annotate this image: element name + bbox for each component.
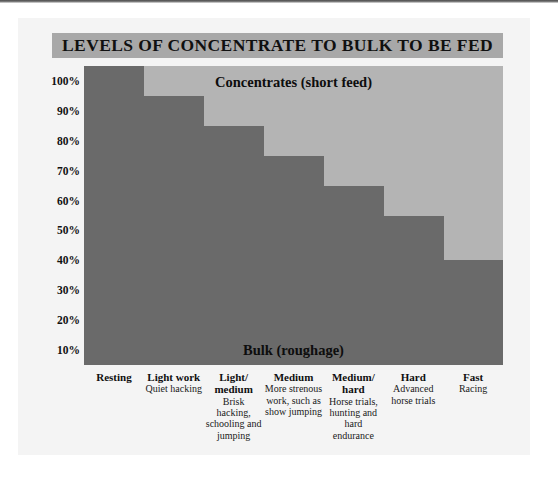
- x-axis-category-description: Quiet hacking: [145, 383, 203, 394]
- x-axis-category-description: Racing: [444, 383, 502, 394]
- x-axis-category-label: Light/ medium: [205, 371, 263, 396]
- x-axis-category: Medium/ hardHorse trials, hunting and ha…: [323, 371, 383, 455]
- bulk-column: [84, 66, 144, 365]
- bulk-column: [144, 96, 204, 365]
- y-axis-tick-label: 90%: [36, 105, 80, 117]
- x-axis-category-label: Resting: [85, 371, 143, 383]
- y-axis-tick-label: 70%: [36, 165, 80, 177]
- page-title: LEVELS OF CONCENTRATE TO BULK TO BE FED: [62, 35, 493, 56]
- bulk-area-label: Bulk (roughage): [84, 342, 503, 359]
- x-axis-category-description: Brisk hacking, schooling and jumping: [205, 396, 263, 441]
- chart-title-band: LEVELS OF CONCENTRATE TO BULK TO BE FED: [52, 33, 503, 58]
- x-axis-category-description: More strenous work, such as show jumping: [265, 383, 323, 417]
- plot-area: Concentrates (short feed) Bulk (roughage…: [84, 66, 503, 365]
- y-axis-tick-label: 20%: [36, 314, 80, 326]
- y-axis-tick-label: 100%: [36, 75, 80, 87]
- y-axis: 100%90%80%70%60%50%40%30%20%10%: [36, 66, 80, 365]
- x-axis-category-label: Light work: [145, 371, 203, 383]
- bulk-column: [323, 186, 383, 365]
- x-axis-category: Light/ mediumBrisk hacking, schooling an…: [204, 371, 264, 455]
- x-axis-category: HardAdvanced horse trials: [383, 371, 443, 455]
- y-axis-tick-label: 40%: [36, 254, 80, 266]
- y-axis-tick-label: 80%: [36, 135, 80, 147]
- y-axis-tick-label: 30%: [36, 284, 80, 296]
- x-axis-category: Light workQuiet hacking: [144, 371, 204, 455]
- x-axis-category-description: Horse trials, hunting and hard endurance: [324, 396, 382, 441]
- x-axis: RestingLight workQuiet hackingLight/ med…: [84, 371, 503, 455]
- y-axis-tick-label: 60%: [36, 195, 80, 207]
- x-axis-category-label: Medium: [265, 371, 323, 383]
- bulk-column: [204, 126, 264, 365]
- x-axis-category: Resting: [84, 371, 144, 455]
- x-axis-category-label: Medium/ hard: [324, 371, 382, 396]
- scan-edge: [0, 0, 558, 3]
- bulk-column: [264, 156, 324, 365]
- x-axis-category-label: Hard: [384, 371, 442, 383]
- x-axis-category-description: Advanced horse trials: [384, 383, 442, 406]
- concentrates-area-label: Concentrates (short feed): [84, 74, 503, 91]
- y-axis-tick-label: 50%: [36, 224, 80, 236]
- chart-page: LEVELS OF CONCENTRATE TO BULK TO BE FED …: [0, 0, 558, 481]
- x-axis-category: MediumMore strenous work, such as show j…: [264, 371, 324, 455]
- x-axis-category-label: Fast: [444, 371, 502, 383]
- x-axis-category: FastRacing: [443, 371, 503, 455]
- y-axis-tick-label: 10%: [36, 344, 80, 356]
